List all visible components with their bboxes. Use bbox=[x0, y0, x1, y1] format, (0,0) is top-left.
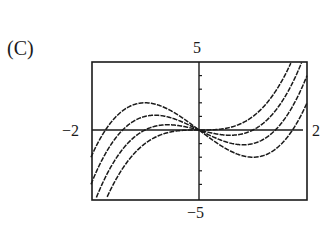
plot-area bbox=[0, 0, 329, 228]
